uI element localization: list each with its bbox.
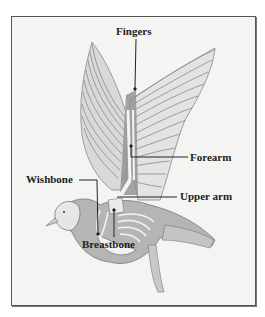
label-fingers: Fingers [116,26,151,37]
label-breastbone: Breastbone [82,239,135,250]
left-wing-illustration [81,42,128,190]
right-wing-illustration [118,48,215,200]
label-forearm: Forearm [190,152,231,163]
label-wishbone: Wishbone [26,174,73,185]
label-upper-arm: Upper arm [180,191,232,202]
